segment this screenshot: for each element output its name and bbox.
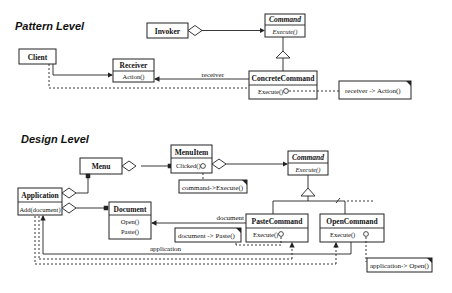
svg-text:Add(document): Add(document) xyxy=(19,206,60,214)
receiver-action-note: receiver -> Action() xyxy=(339,81,411,99)
aggregation-diamond-icon xyxy=(212,159,226,169)
svg-text:Execute(): Execute() xyxy=(295,166,321,174)
svg-text:document -> Paste(): document -> Paste() xyxy=(178,232,235,240)
open-command-class: OpenCommand Execute() xyxy=(320,214,384,242)
svg-text:Application: Application xyxy=(21,191,59,200)
invoker-class: Invoker xyxy=(147,23,188,38)
svg-text:Action(): Action() xyxy=(122,73,144,81)
svg-text:PasteCommand: PasteCommand xyxy=(252,217,304,226)
pattern-level-title: Pattern Level xyxy=(15,20,85,32)
svg-text:MenuItem: MenuItem xyxy=(175,148,209,157)
menuitem-class: MenuItem Clicked() xyxy=(171,145,212,173)
concrete-command-class: ConcreteCommand Execute() xyxy=(249,71,317,99)
svg-text:application-> Open(): application-> Open() xyxy=(370,262,430,270)
inheritance-triangle-icon xyxy=(301,188,315,196)
receiver-role-label: receiver xyxy=(201,71,224,79)
svg-text:Client: Client xyxy=(28,53,48,62)
svg-text:Menu: Menu xyxy=(92,162,111,171)
paste-command-class: PasteCommand Execute() xyxy=(246,214,308,242)
aggregation-diamond-icon xyxy=(62,188,76,198)
svg-text:Command: Command xyxy=(269,15,301,24)
svg-text:Execute(): Execute() xyxy=(253,231,278,239)
application-class: Application Add(document) xyxy=(18,188,62,215)
menu-class: Menu xyxy=(80,158,122,174)
svg-text:Clicked(): Clicked() xyxy=(176,162,201,170)
aggregation-diamond-icon xyxy=(188,26,202,36)
menuitem-execute-note: command->Execute() xyxy=(179,180,247,193)
aggregation-diamond-icon xyxy=(122,161,136,171)
document-role-label: document xyxy=(216,214,244,222)
implementation-circle-icon xyxy=(284,89,289,94)
aggregation-diamond-icon xyxy=(62,203,76,213)
svg-text:Execute(): Execute() xyxy=(330,231,355,239)
design-level-title: Design Level xyxy=(21,133,90,145)
document-class: Document Open() Paste() xyxy=(109,202,151,239)
client-class: Client xyxy=(19,49,56,64)
open-note: application-> Open() xyxy=(367,258,432,272)
svg-text:Receiver: Receiver xyxy=(120,61,149,70)
svg-text:Execute(): Execute() xyxy=(258,88,283,96)
svg-text:command->Execute(): command->Execute() xyxy=(182,184,244,192)
application-role-label: application xyxy=(150,245,182,253)
svg-text:Command: Command xyxy=(292,153,324,162)
inheritance-triangle-icon xyxy=(276,51,290,58)
svg-text:Invoker: Invoker xyxy=(155,27,181,36)
svg-text:receiver -> Action(): receiver -> Action() xyxy=(345,87,401,95)
svg-text:Paste(): Paste() xyxy=(121,228,139,236)
paste-note: document -> Paste() xyxy=(175,228,241,242)
svg-text:Open(): Open() xyxy=(121,218,139,226)
command-pattern-diagram: Pattern Level Invoker Command Execute() … xyxy=(0,0,452,293)
receiver-class: Receiver Action() xyxy=(113,59,154,82)
svg-text:ConcreteCommand: ConcreteCommand xyxy=(252,74,316,83)
svg-text:Execute(): Execute() xyxy=(272,28,298,36)
command-abstract-class-design: Command Execute() xyxy=(288,151,328,175)
svg-text:OpenCommand: OpenCommand xyxy=(326,217,378,226)
svg-text:Document: Document xyxy=(114,205,147,214)
command-abstract-class: Command Execute() xyxy=(265,14,305,37)
